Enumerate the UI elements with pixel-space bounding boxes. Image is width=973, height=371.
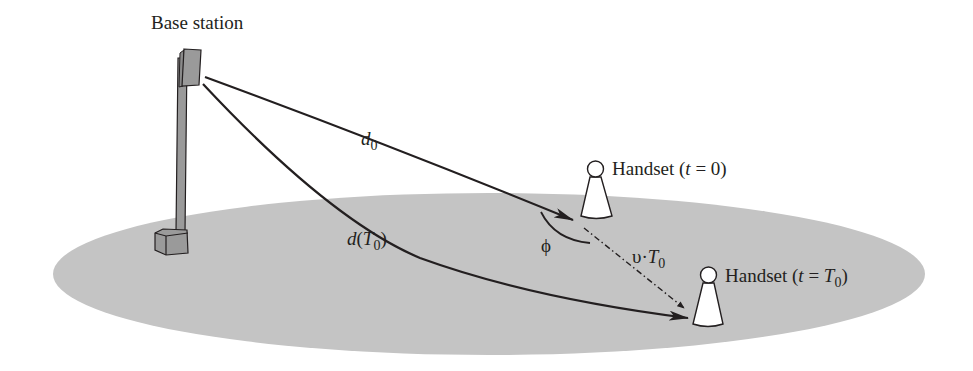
handset-head-icon — [701, 267, 717, 283]
antenna-panel-icon — [182, 49, 201, 86]
base-station-label: Base station — [151, 12, 244, 33]
diagram-canvas: Base station Handset (t = 0) Handset (t … — [0, 0, 973, 371]
equipment-box — [155, 229, 188, 255]
handset-t0-label: Handset (t = 0) — [612, 158, 727, 180]
label-phi: ϕ — [541, 235, 551, 256]
handset-t0 — [581, 161, 612, 219]
handset-body-icon — [581, 177, 612, 219]
handset-head-icon — [588, 161, 604, 177]
label-d0: d0 — [361, 128, 378, 153]
